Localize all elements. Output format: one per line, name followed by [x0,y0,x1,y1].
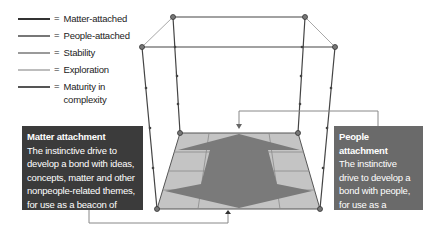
legend-label: Maturity in complexity [64,80,124,106]
matter-attachment-title: Matter attachment [27,130,138,144]
equals-sign: = [54,29,60,40]
legend-item-exploration: = Exploration [18,63,138,80]
legend-line-people [18,35,50,37]
legend-line-exploration [18,69,50,71]
legend-item-stability: = Stability [18,46,138,63]
legend-line-maturity [18,86,50,88]
matter-attachment-description: The instinctive drive to develop a bond … [27,144,138,225]
equals-sign: = [54,63,60,74]
legend-line-stability [18,52,50,54]
people-attachment-description: The instinctive drive to develop a bond … [339,157,418,225]
legend-label: Matter-attached [64,12,128,25]
equals-sign: = [54,80,60,91]
equals-sign: = [54,12,60,23]
people-attachment-title: People attachment [339,130,418,157]
legend-line-matter [18,18,50,20]
legend-label: People-attached [64,29,130,42]
arrow-up-marker [225,210,231,214]
legend-item-matter: = Matter-attached [18,12,138,29]
equals-sign: = [54,46,60,57]
people-attachment-box: People attachment The instinctive drive … [334,126,423,210]
arrow-down-marker [236,124,242,129]
legend-label: Stability [64,46,95,59]
legend-label: Exploration [64,63,109,76]
legend-item-maturity: = Maturity in complexity [18,80,138,108]
legend: = Matter-attached = People-attached = St… [18,12,138,108]
legend-item-people: = People-attached [18,29,138,46]
matter-attachment-box: Matter attachment The instinctive drive … [22,126,143,210]
